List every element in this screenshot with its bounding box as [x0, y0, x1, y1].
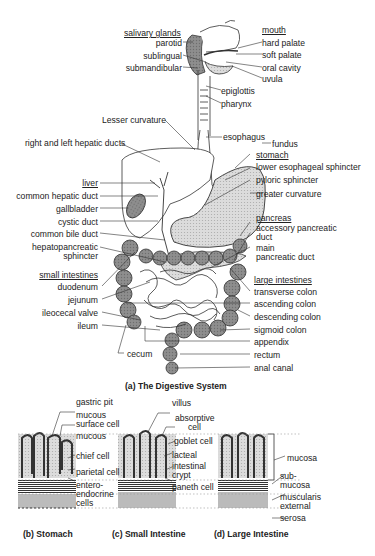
label-common-hepatic-duct: common hepatic duct — [10, 191, 98, 201]
label-main-pancreatic-duct: pancreatic duct — [256, 252, 314, 262]
label-sigmoid-colon: sigmoid colon — [254, 325, 307, 335]
label-mucous: mucous — [76, 431, 106, 441]
label-parotid: parotid — [140, 38, 182, 48]
label-mucosa: mucosa — [287, 453, 317, 463]
label-surface-cell: surface cell — [76, 419, 119, 429]
label-cystic-duct: cystic duct — [20, 217, 98, 227]
label-cells: cells — [76, 498, 93, 508]
label-transverse-colon: transverse colon — [254, 287, 317, 297]
label-parietal-cell: parietal cell — [76, 467, 119, 477]
label-descending-colon: descending colon — [254, 312, 321, 322]
label-lesser-curvature: Lesser curvature — [102, 115, 166, 125]
label-villus: villus — [172, 398, 191, 408]
label-submucosa: mucosa — [280, 480, 310, 490]
label-hard-palate: hard palate — [262, 38, 305, 48]
label-absorptive-cell: cell — [188, 422, 201, 432]
label-appendix: appendix — [254, 337, 289, 347]
label-serosa: serosa — [280, 513, 306, 523]
label-paneth-cell: paneth cell — [172, 482, 214, 492]
label-anal-canal: anal canal — [254, 363, 293, 373]
label-common-bile-duct: common bile duct — [10, 229, 98, 239]
label-oral-cavity: oral cavity — [262, 63, 301, 73]
label-gallbladder: gallbladder — [20, 204, 98, 214]
label-goblet-cell: goblet cell — [174, 436, 213, 446]
label-submandibular: submandibular — [110, 63, 182, 73]
small-intestines-heading: small intestines — [20, 270, 98, 280]
liver-heading: liver — [40, 178, 98, 188]
label-chief-cell: chief cell — [76, 451, 109, 461]
pancreas-heading: pancreas — [256, 213, 291, 223]
caption-large-intestine: (d) Large Intestine — [214, 529, 289, 539]
mouth-heading: mouth — [262, 25, 286, 35]
stomach-wall-panel — [18, 433, 76, 508]
large-intestine-wall-panel — [218, 433, 274, 508]
label-ileum: ileum — [20, 321, 98, 331]
label-external: external — [280, 501, 311, 511]
label-esophagus: esophagus — [223, 132, 265, 142]
label-soft-palate: soft palate — [262, 50, 302, 60]
label-gastric-pit: gastric pit — [76, 397, 113, 407]
digestive-system-figure: salivary glands parotid sublingual subma… — [0, 0, 375, 556]
label-sublingual: sublingual — [130, 51, 182, 61]
label-lower-esophageal-sphincter: lower esophageal sphincter — [256, 162, 361, 172]
label-fundus: fundus — [272, 139, 298, 149]
large-intestines-heading: large intestines — [254, 275, 312, 285]
label-rectum: rectum — [254, 350, 280, 360]
caption-digestive-system: (a) The Digestive System — [125, 381, 227, 391]
caption-small-intestine: (c) Small Intestine — [112, 529, 186, 539]
label-uvula: uvula — [262, 74, 283, 84]
label-jejunum: jejunum — [20, 295, 98, 305]
label-pharynx: pharynx — [221, 99, 252, 109]
salivary-glands-heading: salivary glands — [124, 28, 181, 38]
label-ileocecal-valve: ileocecal valve — [20, 308, 98, 318]
label-crypt: crypt — [172, 470, 191, 480]
small-intestine-wall-panel — [118, 431, 176, 508]
label-sphincter: sphincter — [10, 251, 98, 261]
label-lacteal: lacteal — [172, 450, 197, 460]
label-cecum: cecum — [127, 349, 152, 359]
label-pyloric-sphincter: pyloric sphincter — [256, 175, 318, 185]
label-epiglottis: epiglottis — [221, 86, 255, 96]
stomach-heading: stomach — [256, 150, 288, 160]
label-hepatic-ducts: right and left hepatic ducts — [25, 138, 125, 148]
label-greater-curvature: greater curvature — [256, 189, 321, 199]
label-duodenum: duodenum — [20, 282, 98, 292]
label-duct: duct — [256, 232, 272, 242]
caption-stomach: (b) Stomach — [23, 529, 73, 539]
label-ascending-colon: ascending colon — [254, 299, 316, 309]
